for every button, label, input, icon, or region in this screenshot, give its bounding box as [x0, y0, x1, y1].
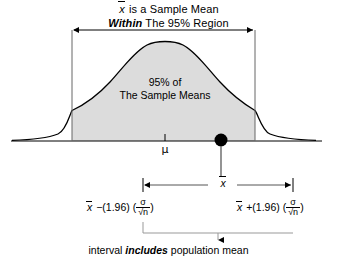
caption-emphasis: includes	[125, 244, 168, 256]
sample-mean-dot	[215, 134, 228, 147]
lower-close-paren: )	[150, 201, 154, 213]
caption-brace	[143, 222, 293, 233]
confidence-interval-diagram: x is a Sample Mean Within The 95% Region	[0, 0, 337, 257]
diagram-vector-layer	[0, 0, 337, 257]
interval-center-label: x	[209, 177, 237, 189]
lower-numerator: σ	[136, 198, 150, 207]
bottom-caption: interval includes population mean	[0, 244, 337, 256]
lower-denominator-text: n	[143, 207, 148, 217]
upper-bound-formula: x +(1.96) (σ√n)	[236, 199, 304, 218]
upper-operator: +(1.96) (	[246, 201, 286, 213]
upper-denominator: √n	[286, 207, 300, 217]
xbar-symbol-upper: x	[236, 202, 243, 213]
caption-prefix: interval	[89, 244, 123, 256]
lower-operator: −(1.96) (	[96, 201, 136, 213]
upper-sigma-sqrt-n: σ√n	[286, 198, 300, 217]
region-label-line-1: 95% of	[98, 76, 232, 89]
lower-denominator: √n	[136, 207, 150, 217]
region-label-line-2: The Sample Means	[98, 89, 232, 102]
mu-label: μ	[157, 143, 173, 156]
lower-sigma-sqrt-n: σ√n	[136, 198, 150, 217]
upper-denominator-text: n	[293, 207, 298, 217]
caption-suffix: population mean	[171, 244, 249, 256]
upper-numerator: σ	[286, 198, 300, 207]
lower-bound-formula: x −(1.96) (σ√n)	[86, 199, 154, 218]
xbar-symbol-lower: x	[86, 202, 93, 213]
upper-close-paren: )	[300, 201, 304, 213]
xbar-symbol-interval: x	[219, 177, 226, 189]
region-label: 95% of The Sample Means	[98, 76, 232, 102]
